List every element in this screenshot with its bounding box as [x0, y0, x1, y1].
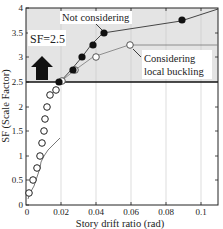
- svg-text:0: 0: [19, 200, 24, 210]
- considering-label-line1: Considering: [144, 53, 196, 64]
- svg-text:0.02: 0.02: [53, 207, 69, 217]
- svg-text:0.06: 0.06: [123, 207, 139, 217]
- lower-curve: [28, 138, 60, 199]
- svg-text:4: 4: [19, 3, 24, 13]
- x-axis-label: Story drift ratio (rad): [76, 218, 165, 229]
- svg-text:2.5: 2.5: [12, 77, 24, 87]
- svg-text:0.5: 0.5: [12, 175, 24, 185]
- considering-label-line2: local buckling: [144, 66, 205, 77]
- svg-text:3: 3: [19, 52, 24, 62]
- svg-text:2: 2: [19, 102, 24, 112]
- y-tick-labels: 0 0.5 1 1.5 2 2.5 3 3.5 4: [12, 3, 24, 210]
- x-tick-labels: 0 0.02 0.04 0.06 0.08 0.1: [25, 207, 207, 217]
- svg-text:0.04: 0.04: [88, 207, 104, 217]
- sf-label: SF=2.5: [30, 32, 65, 46]
- svg-text:1.5: 1.5: [12, 126, 24, 136]
- svg-text:0.1: 0.1: [195, 207, 206, 217]
- svg-text:1: 1: [19, 151, 24, 161]
- svg-text:3.5: 3.5: [12, 28, 24, 38]
- svg-text:0.08: 0.08: [158, 207, 174, 217]
- not-considering-label: Not considering: [62, 12, 130, 23]
- open-markers-lower: [26, 87, 60, 197]
- chart: 0 0.5 1 1.5 2 2.5 3 3.5 4 0 0.02 0.04 0.…: [0, 0, 223, 229]
- svg-text:0: 0: [25, 207, 30, 217]
- y-axis-label: SF (Scale Factor): [0, 69, 12, 143]
